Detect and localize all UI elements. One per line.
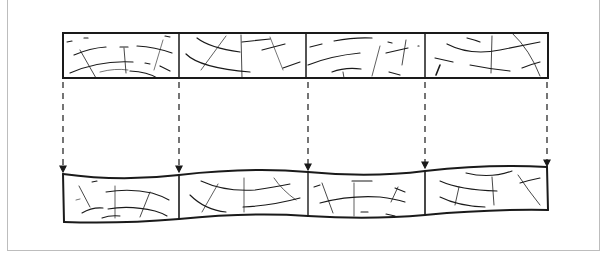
bottom-segment-4-texture (440, 171, 540, 207)
arrow-3 (305, 82, 311, 170)
top-segment-4-texture (435, 33, 540, 76)
top-segment-3-texture (308, 38, 419, 78)
diagram-canvas (0, 0, 602, 262)
arrow-2 (176, 82, 182, 172)
arrow-4 (422, 82, 428, 168)
arrow-1 (60, 82, 66, 172)
bottom-segment-3-texture (314, 181, 405, 216)
bottom-strip (63, 166, 548, 222)
top-segment-1-texture (67, 36, 172, 78)
bottom-segment-1-texture (76, 181, 169, 218)
top-segment-2-texture (186, 35, 300, 78)
projection-arrows (60, 82, 550, 172)
arrow-5 (544, 82, 550, 166)
bottom-segment-2-texture (190, 178, 300, 212)
top-strip (63, 33, 548, 78)
